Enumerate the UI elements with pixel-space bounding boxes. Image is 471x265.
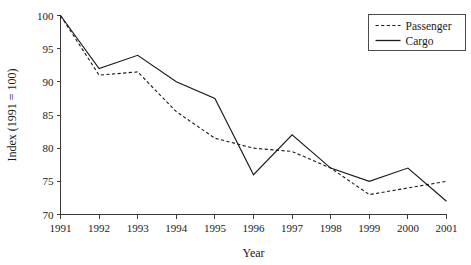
- x-axis-ticks: [61, 215, 447, 219]
- legend-label-cargo: Cargo: [406, 35, 434, 48]
- x-axis: 1991199219931994199519961997199819992000…: [50, 215, 458, 234]
- x-tick-label: 1993: [127, 222, 150, 234]
- y-tick-label: 95: [43, 43, 55, 55]
- x-tick-label: 1998: [320, 222, 343, 234]
- line-chart: 707580859095100 199119921993199419951996…: [0, 0, 471, 265]
- legend-label-passenger: Passenger: [406, 20, 452, 33]
- x-tick-label: 1994: [165, 222, 188, 234]
- x-tick-label: 2000: [397, 222, 420, 234]
- x-tick-label: 1995: [204, 222, 227, 234]
- y-axis-ticks: [57, 16, 61, 215]
- x-tick-label: 1999: [358, 222, 381, 234]
- y-axis: 707580859095100: [37, 10, 61, 221]
- y-axis-title: Index (1991 = 100): [5, 68, 19, 161]
- chart-canvas: 707580859095100 199119921993199419951996…: [0, 0, 471, 265]
- y-tick-label: 75: [43, 175, 55, 187]
- y-tick-label: 80: [43, 142, 55, 154]
- x-tick-label: 1991: [50, 222, 72, 234]
- x-axis-title: Year: [242, 246, 264, 260]
- y-tick-label: 100: [37, 10, 54, 22]
- x-tick-label: 1997: [281, 222, 304, 234]
- y-tick-label: 85: [43, 109, 55, 121]
- x-axis-tick-labels: 1991199219931994199519961997199819992000…: [50, 222, 458, 234]
- x-tick-label: 2001: [436, 222, 458, 234]
- y-axis-tick-labels: 707580859095100: [37, 10, 54, 221]
- y-tick-label: 70: [43, 209, 55, 221]
- chart-legend: PassengerCargo: [369, 15, 466, 51]
- x-tick-label: 1992: [88, 222, 110, 234]
- x-tick-label: 1996: [243, 222, 266, 234]
- y-tick-label: 90: [43, 76, 55, 88]
